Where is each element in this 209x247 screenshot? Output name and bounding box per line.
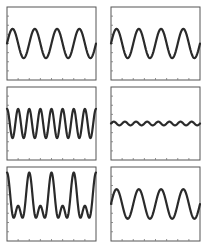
subplot-row-2-left	[7, 87, 96, 160]
waveform-line	[111, 29, 200, 58]
subplot-row-3-right	[111, 167, 200, 241]
waveform-grid	[0, 0, 209, 247]
subplot-row-3-left	[7, 167, 96, 241]
plot-frame	[7, 167, 96, 241]
waveform-line	[111, 189, 200, 219]
waveform-line	[7, 109, 96, 138]
subplot-row-1-left	[7, 7, 96, 80]
waveform-line	[111, 122, 200, 126]
waveform-line	[7, 29, 96, 58]
subplot-row-1-right	[111, 7, 200, 80]
subplot-row-2-right	[111, 87, 200, 160]
waveform-line	[7, 173, 96, 218]
